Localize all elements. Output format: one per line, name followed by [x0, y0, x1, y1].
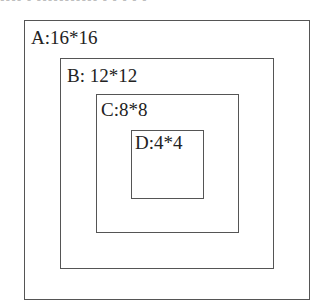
box-d-label: D:4*4 — [135, 133, 183, 152]
box-c-label: C:8*8 — [101, 100, 147, 119]
box-a-label: A:16*16 — [31, 28, 98, 47]
box-b-label: B: 12*12 — [67, 66, 137, 85]
cropped-top-text: ▪▪▪▪ ▪ ▪▪▪▪▪▪▪▪▪▪▪ ▪ ▪ ▪ ▪ ▪ — [0, 0, 321, 5]
